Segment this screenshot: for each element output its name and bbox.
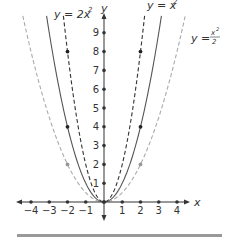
- data-point: [139, 50, 143, 54]
- x-tick-dot: [175, 200, 179, 204]
- y-axis-down-arrow-icon: [102, 215, 107, 221]
- x-tick-label: −3: [42, 205, 57, 216]
- y-tick-label: 2: [93, 159, 99, 170]
- x-axis-label: x: [193, 196, 201, 209]
- y-tick-label: 5: [93, 103, 99, 114]
- x-tick-dot: [157, 200, 161, 204]
- x-tick-dot: [66, 200, 70, 204]
- x-tick-dot: [120, 200, 124, 204]
- x-tick-dot: [84, 200, 88, 204]
- y-tick-label: 4: [93, 121, 99, 132]
- x-tick-label: −2: [60, 205, 75, 216]
- x-tick-label: −4: [24, 205, 39, 216]
- data-point: [139, 163, 143, 167]
- x-tick-dot: [139, 200, 143, 204]
- x-tick-label: 2: [137, 205, 143, 216]
- svg-text:y =: y =: [190, 32, 210, 45]
- x-tick-dot: [29, 200, 33, 204]
- parabola-chart: −4−3−2−11234123456789 y x y = 2x 2 y = x…: [0, 0, 231, 243]
- y-tick-label: 8: [93, 46, 99, 57]
- y-tick-dot: [102, 31, 106, 35]
- y-tick-dot: [102, 69, 106, 73]
- label-y-equals-x-squared-over-2: y = x 2 2: [190, 26, 220, 46]
- svg-text:y = 2x: y = 2x: [53, 8, 91, 21]
- y-tick-label: 3: [93, 140, 99, 151]
- y-tick-label: 9: [93, 27, 99, 38]
- y-axis-label: y: [100, 2, 108, 15]
- data-point: [66, 50, 70, 54]
- x-tick-label: −1: [78, 205, 93, 216]
- x-tick-label: 4: [174, 205, 180, 216]
- x-tick-label: 3: [156, 205, 162, 216]
- bottom-divider-bar: [17, 234, 222, 237]
- y-tick-label: 7: [93, 65, 99, 76]
- x-tick-label: 1: [119, 205, 125, 216]
- x-axis-left-arrow-icon: [16, 200, 22, 205]
- label-y-equals-2x-squared: y = 2x 2: [53, 6, 93, 21]
- y-tick-label: 1: [93, 178, 99, 189]
- ticks-layer: −4−3−2−11234123456789: [24, 27, 181, 216]
- y-tick-dot: [102, 144, 106, 148]
- x-axis-right-arrow-icon: [184, 200, 190, 205]
- y-tick-dot: [102, 50, 106, 54]
- data-point: [139, 125, 143, 129]
- svg-text:2: 2: [88, 6, 93, 14]
- y-tick-dot: [102, 181, 106, 185]
- x-tick-dot: [47, 200, 51, 204]
- data-point: [66, 163, 70, 167]
- y-tick-dot: [102, 163, 106, 167]
- origin-dot: [102, 200, 106, 204]
- svg-text:2: 2: [173, 0, 178, 6]
- svg-text:2: 2: [216, 26, 219, 32]
- axes-layer: [16, 13, 190, 221]
- label-y-equals-x-squared: y = x 2: [146, 0, 178, 12]
- y-tick-dot: [102, 106, 106, 110]
- svg-text:2: 2: [212, 38, 217, 46]
- data-point: [66, 125, 70, 129]
- y-tick-label: 6: [93, 84, 99, 95]
- y-tick-dot: [102, 125, 106, 129]
- y-tick-dot: [102, 87, 106, 91]
